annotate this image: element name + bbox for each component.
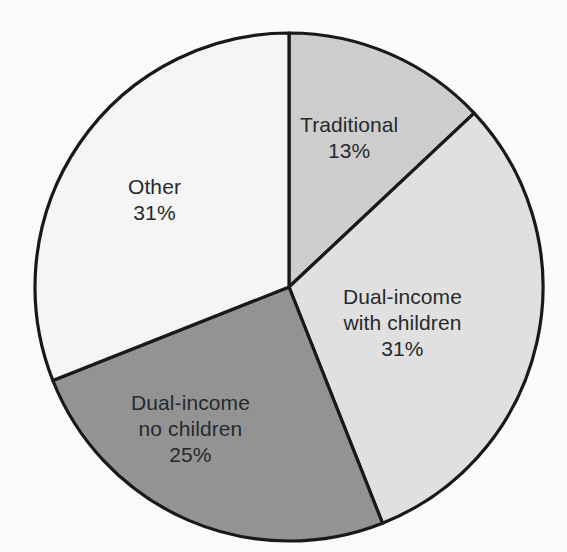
slice-label-dual-with-value: 31% — [343, 336, 462, 362]
slice-label-dual-with-line1: Dual-income — [343, 284, 462, 310]
slice-label-dual-no-line2: no children — [131, 416, 250, 442]
slice-label-other-line1: Other — [128, 174, 181, 200]
pie-chart-svg — [0, 0, 567, 552]
slice-label-other: Other 31% — [128, 174, 181, 226]
slice-label-dual-income-no-children: Dual-income no children 25% — [131, 390, 250, 468]
slice-label-other-value: 31% — [128, 200, 181, 226]
slice-label-dual-no-value: 25% — [131, 442, 250, 468]
slice-label-traditional-line1: Traditional — [300, 112, 398, 138]
slice-label-dual-no-line1: Dual-income — [131, 390, 250, 416]
slice-label-traditional-value: 13% — [300, 138, 398, 164]
pie-chart-figure: Traditional 13% Dual-income with childre… — [0, 0, 567, 552]
slice-label-traditional: Traditional 13% — [300, 112, 398, 164]
slice-label-dual-income-with-children: Dual-income with children 31% — [343, 284, 462, 362]
pie-slice-group — [35, 33, 543, 541]
slice-label-dual-with-line2: with children — [343, 310, 462, 336]
